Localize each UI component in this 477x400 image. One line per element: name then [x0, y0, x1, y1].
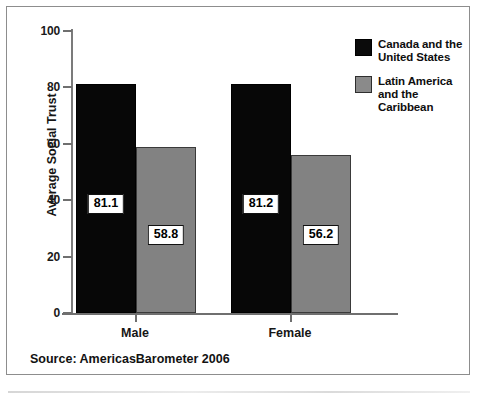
cutoff-caption-strip: [8, 391, 470, 393]
legend-label-latin-america-line3: Caribbean: [378, 101, 433, 113]
value-label-male-latin-america: 58.8: [148, 225, 184, 245]
y-tick-mark-80: [63, 86, 72, 88]
y-tick-mark-60: [63, 143, 72, 145]
x-tick-mark-male: [135, 314, 137, 322]
y-tick-label-0: 0: [20, 306, 60, 320]
plot-area: 81.1 58.8 81.2 56.2: [72, 31, 393, 313]
x-tick-mark-female: [290, 314, 292, 322]
legend-label-canada-us-line1: Canada and the: [378, 38, 462, 50]
y-tick-label-80: 80: [20, 80, 60, 94]
dark-square-swatch-icon: [355, 39, 372, 56]
legend-label-canada-us: Canada and the United States: [378, 38, 462, 64]
y-tick-mark-40: [63, 199, 72, 201]
gray-square-swatch-icon: [355, 76, 372, 93]
y-tick-mark-0: [63, 312, 72, 314]
legend-label-latin-america-line2: and the: [378, 88, 418, 100]
x-tick-label-female: Female: [268, 326, 311, 340]
y-tick-label-20: 20: [20, 250, 60, 264]
bar-chart-figure: Average Social Trust 100 80 60 40 20 0 M…: [0, 0, 477, 400]
y-tick-mark-20: [63, 256, 72, 258]
value-label-male-canada-us: 81.1: [88, 194, 124, 214]
legend-item-latin-america[interactable]: Latin America and the Caribbean: [355, 75, 467, 114]
source-note: Source: AmericasBarometer 2006: [30, 352, 230, 366]
legend-label-canada-us-line2: United States: [378, 51, 450, 63]
x-tick-label-male: Male: [121, 326, 149, 340]
value-label-female-latin-america: 56.2: [303, 225, 339, 245]
legend-label-latin-america-line1: Latin America: [378, 75, 452, 87]
y-tick-label-40: 40: [20, 193, 60, 207]
value-label-female-canada-us: 81.2: [243, 194, 279, 214]
y-tick-label-60: 60: [20, 137, 60, 151]
x-axis-line: [62, 313, 398, 315]
chart-legend: Canada and the United States Latin Ameri…: [355, 38, 467, 125]
legend-item-canada-us[interactable]: Canada and the United States: [355, 38, 467, 64]
y-tick-label-100: 100: [20, 24, 60, 38]
legend-label-latin-america: Latin America and the Caribbean: [378, 75, 452, 114]
y-tick-mark-100: [63, 30, 72, 32]
